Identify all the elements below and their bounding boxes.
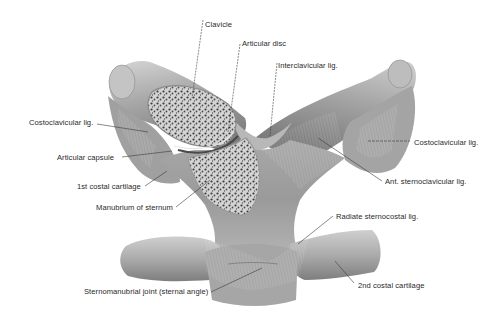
label-costoclavicular-lig-left: Costoclavicular lig. [29, 118, 93, 127]
label-costoclavicular-lig-right: Costoclavicular lig. [414, 138, 478, 147]
label-clavicle: Clavicle [205, 20, 232, 29]
anatomy-figure: Clavicle Articular disc Interclavicular … [0, 0, 504, 317]
label-sternomanubrial-joint: Sternomanubrial joint (sternal angle) [84, 287, 208, 296]
label-first-costal-cartilage: 1st costal cartilage [77, 182, 141, 191]
label-second-costal-cartilage: 2nd costal cartilage [358, 281, 424, 290]
label-interclavicular-lig: Interclavicular lig. [278, 61, 338, 70]
manubrium-section [188, 138, 260, 215]
label-articular-capsule: Articular capsule [57, 153, 114, 162]
label-ant-sternoclavicular-lig: Ant. sternoclavicular lig. [385, 177, 467, 186]
label-manubrium-of-sternum: Manubrium of sternum [96, 203, 173, 212]
label-radiate-sternocostal-lig: Radiate sternocostal lig. [336, 212, 418, 221]
label-articular-disc: Articular disc [242, 39, 286, 48]
